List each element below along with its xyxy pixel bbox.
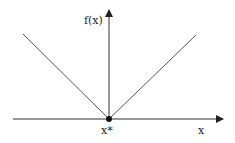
x-axis-label: x	[198, 124, 205, 137]
right-branch	[109, 35, 196, 119]
left-branch	[23, 34, 109, 119]
y-axis-label: f(x)	[84, 14, 103, 27]
minimum-point	[106, 116, 112, 122]
abs-function-diagram: f(x) x* x	[0, 0, 235, 143]
point-label: x*	[101, 124, 113, 137]
